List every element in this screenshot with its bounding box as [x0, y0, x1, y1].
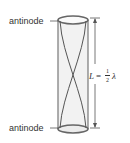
- arrow-down-icon: [93, 123, 97, 128]
- eq-rhs: λ: [112, 71, 116, 81]
- length-equation: L = 1 2 λ: [89, 68, 116, 83]
- eq-denominator: 2: [106, 77, 109, 83]
- eq-fraction: 1 2: [105, 68, 110, 83]
- eq-lhs: L: [89, 71, 94, 81]
- eq-numerator: 1: [106, 68, 109, 74]
- label-bottom-antinode: antinode: [9, 124, 44, 133]
- fraction-bar: [105, 75, 110, 76]
- label-top-antinode: antinode: [9, 17, 44, 26]
- arrow-up-icon: [93, 18, 97, 23]
- tube-top-rim: [58, 16, 88, 24]
- eq-equals: =: [96, 71, 101, 81]
- tube-bottom-rim: [58, 125, 88, 133]
